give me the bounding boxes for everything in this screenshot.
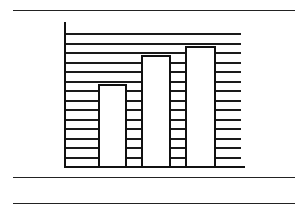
bottom-rule-1	[13, 177, 295, 178]
bar-1	[98, 84, 127, 166]
y-axis	[64, 22, 66, 168]
bottom-rule-2	[13, 203, 295, 204]
gridline	[64, 43, 241, 45]
gridline	[64, 33, 241, 35]
x-axis	[64, 166, 245, 168]
bar-2	[141, 55, 171, 166]
bar-3	[185, 46, 216, 166]
bar-chart	[0, 0, 308, 205]
